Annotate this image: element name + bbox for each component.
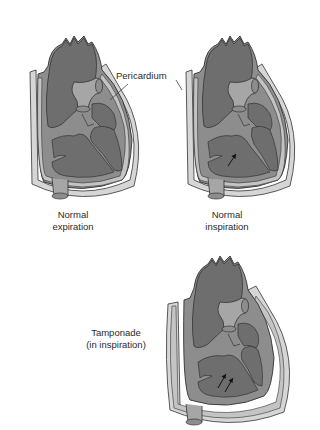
heart-normal-inspiration — [178, 30, 298, 200]
label-tamponade: Tamponade (in inspiration) — [76, 327, 156, 351]
heart-tamponade — [166, 252, 292, 427]
label-normal-expiration: Normal expiration — [42, 209, 104, 233]
label-normal-inspiration: Normal inspiration — [196, 209, 258, 233]
